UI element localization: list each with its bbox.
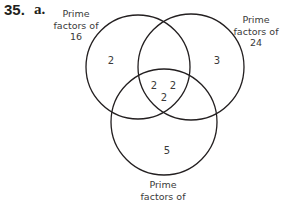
region-center-2: 2 — [170, 80, 176, 91]
set-b-circle — [138, 14, 244, 120]
set-c-circle — [111, 69, 217, 175]
region-a-only: 2 — [108, 55, 114, 66]
region-center-3: 2 — [161, 92, 167, 103]
region-b-only: 3 — [214, 55, 220, 66]
region-center-1: 2 — [151, 80, 157, 91]
region-c-only: 5 — [164, 145, 170, 156]
venn-diagram: 2 3 5 2 2 2 — [0, 0, 281, 202]
